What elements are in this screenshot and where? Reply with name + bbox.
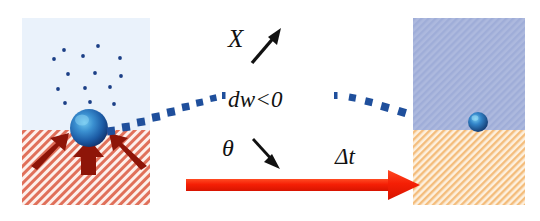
initial-sphere bbox=[70, 109, 108, 147]
final-state-panel bbox=[413, 18, 525, 205]
right-bulk-fluid-region bbox=[413, 18, 525, 130]
label-x: X bbox=[228, 26, 243, 51]
label-work-increment: dw<0 bbox=[228, 88, 283, 111]
x-direction-arrow bbox=[252, 28, 281, 63]
final-sphere bbox=[468, 112, 488, 132]
theta-direction-arrow bbox=[253, 139, 280, 169]
initial-state-panel bbox=[22, 18, 150, 205]
initial-sphere-highlight bbox=[75, 115, 89, 126]
label-delta-t: Δt bbox=[335, 145, 355, 168]
right-substrate-orange-region bbox=[413, 130, 525, 205]
label-theta: θ bbox=[222, 136, 234, 160]
time-process-arrow bbox=[186, 170, 420, 200]
final-sphere-highlight bbox=[472, 115, 479, 121]
